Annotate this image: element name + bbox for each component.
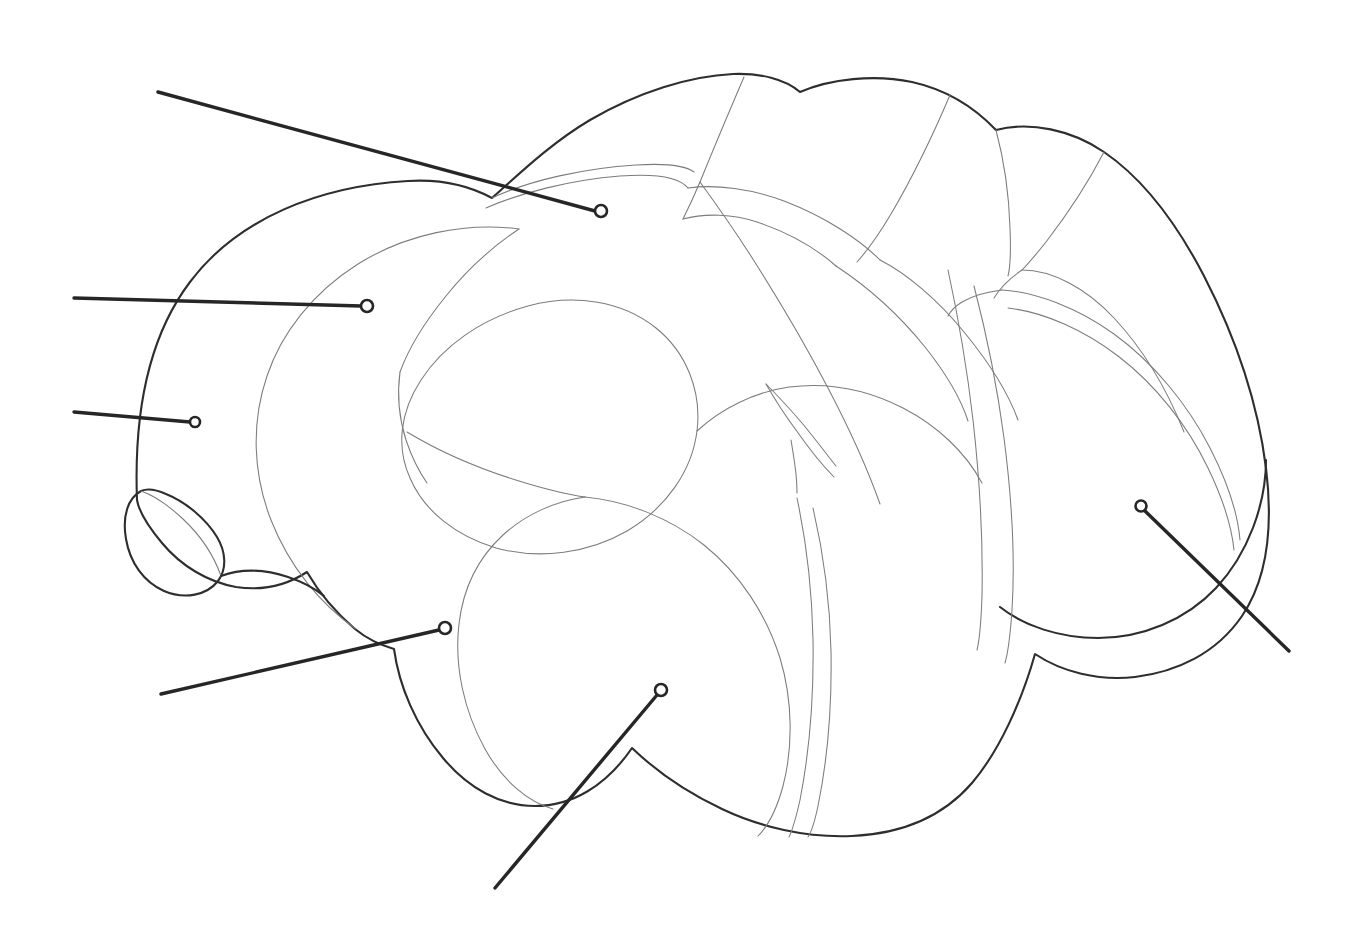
- anatomical-diagram-svg: [0, 0, 1353, 942]
- callout-4-marker[interactable]: [439, 622, 451, 634]
- callout-1-marker[interactable]: [595, 205, 607, 217]
- canvas-background: [0, 0, 1353, 942]
- callout-6-marker[interactable]: [1136, 501, 1147, 512]
- callout-5-marker[interactable]: [655, 684, 667, 696]
- callout-2-marker[interactable]: [361, 300, 373, 312]
- callout-3-marker[interactable]: [190, 417, 200, 427]
- diagram-root: [0, 0, 1353, 942]
